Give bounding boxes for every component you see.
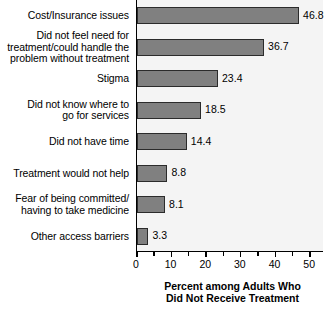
x-axis-title-line: Percent among Adults Who	[136, 280, 329, 292]
x-axis-title: Percent among Adults WhoDid Not Receive …	[136, 280, 329, 304]
plot-area: 46.836.723.418.514.48.88.13.3	[136, 0, 323, 252]
x-tick-label: 20	[192, 258, 218, 270]
category-label-line: Cost/Insurance issues	[0, 10, 129, 22]
category-label: Stigma	[0, 73, 129, 85]
category-label-line: go for services	[0, 110, 129, 122]
bar	[137, 39, 264, 56]
x-tick-label: 30	[227, 258, 253, 270]
category-label: Did not know where togo for services	[0, 99, 129, 122]
category-label-line: Treatment would not help	[0, 168, 129, 180]
bar-value-label: 3.3	[152, 230, 167, 241]
bar	[137, 102, 201, 119]
x-tick-label: 40	[262, 258, 288, 270]
bar	[137, 165, 167, 182]
category-label: Treatment would not help	[0, 168, 129, 180]
category-label-line: having to take medicine	[0, 205, 129, 217]
x-tick-major	[240, 252, 242, 257]
bar-value-label: 8.1	[169, 199, 184, 210]
bar-value-label: 36.7	[268, 41, 288, 52]
plot-background	[137, 0, 323, 251]
x-tick-major	[275, 252, 277, 257]
x-tick-major	[171, 252, 173, 257]
bar	[137, 196, 165, 213]
bar-chart: Cost/Insurance issuesDid not feel need f…	[0, 0, 329, 314]
category-label-line: Did not have time	[0, 136, 129, 148]
x-tick-major	[309, 252, 311, 257]
x-tick-label: 10	[158, 258, 184, 270]
category-label: Other access barriers	[0, 231, 129, 243]
bar-value-label: 8.8	[171, 167, 186, 178]
x-tick-major	[136, 252, 138, 257]
bar	[137, 7, 299, 24]
category-label-line: Other access barriers	[0, 231, 129, 243]
bar-value-label: 14.4	[191, 136, 211, 147]
bar-value-label: 46.8	[303, 10, 323, 21]
category-label: Did not have time	[0, 136, 129, 148]
x-tick-minor	[223, 252, 225, 256]
x-tick-minor	[153, 252, 155, 256]
bar	[137, 133, 187, 150]
bar	[137, 228, 148, 245]
x-axis-title-line: Did Not Receive Treatment	[136, 292, 329, 304]
category-label-line: Did not feel need for	[0, 30, 129, 42]
x-tick-label: 0	[123, 258, 149, 270]
x-tick-minor	[188, 252, 190, 256]
bar-value-label: 23.4	[222, 73, 242, 84]
category-label-line: problem without treatment	[0, 53, 129, 65]
category-label-line: Stigma	[0, 73, 129, 85]
x-tick-minor	[292, 252, 294, 256]
bar	[137, 70, 218, 87]
x-tick-minor	[257, 252, 259, 256]
bar-value-label: 18.5	[205, 104, 225, 115]
category-label: Fear of being committed/having to take m…	[0, 193, 129, 216]
category-label: Cost/Insurance issues	[0, 10, 129, 22]
x-tick-label: 50	[296, 258, 322, 270]
category-axis-labels: Cost/Insurance issuesDid not feel need f…	[0, 0, 133, 252]
x-tick-major	[205, 252, 207, 257]
category-label: Did not feel need fortreatment/could han…	[0, 30, 129, 65]
